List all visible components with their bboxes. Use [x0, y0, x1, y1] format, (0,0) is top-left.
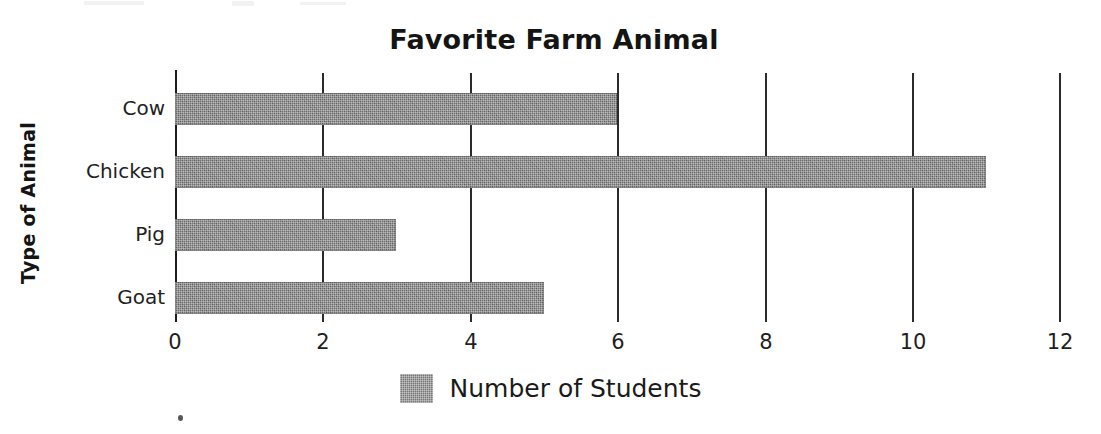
- gridline-12: [1059, 73, 1061, 322]
- y-axis-tick-labels: Cow Chicken Pig Goat: [0, 70, 165, 322]
- bar-cow: [175, 93, 617, 125]
- gridline-10: [912, 73, 914, 322]
- y-axis-tick-label-cow: Cow: [5, 96, 165, 120]
- x-axis-tick-label-12: 12: [1047, 330, 1074, 354]
- plot-area: [175, 70, 1060, 322]
- chart-title: Favorite Farm Animal: [0, 24, 1101, 55]
- x-axis-tick-label-0: 0: [168, 330, 181, 354]
- x-axis-tick-label-8: 8: [759, 330, 772, 354]
- legend-swatch-number-of-students: [400, 374, 433, 403]
- y-axis-tick-label-chicken: Chicken: [5, 159, 165, 183]
- gridline-8: [765, 73, 767, 322]
- gridline-6: [617, 73, 619, 322]
- scan-artifact-smudge: [300, 2, 346, 5]
- scan-artifact-smudge: [232, 1, 254, 6]
- chart-title-text: Favorite Farm Animal: [389, 24, 718, 55]
- y-axis-tick-label-pig: Pig: [5, 222, 165, 246]
- scan-artifact-speck: [178, 415, 183, 421]
- legend-label-number-of-students: Number of Students: [450, 374, 702, 403]
- bar-pig: [175, 219, 396, 251]
- x-axis-tick-label-6: 6: [611, 330, 624, 354]
- chart-legend: Number of Students: [0, 374, 1101, 403]
- scan-artifact-smudge: [84, 1, 144, 5]
- y-axis-tick-label-goat: Goat: [5, 285, 165, 309]
- x-axis-tick-label-10: 10: [900, 330, 927, 354]
- bar-chicken: [175, 156, 986, 188]
- bar-goat: [175, 282, 544, 314]
- x-axis-tick-labels: 0 2 4 6 8 10 12: [175, 330, 1060, 360]
- chart-page: Favorite Farm Animal Type of Animal Cow …: [0, 0, 1101, 434]
- x-axis-tick-label-2: 2: [316, 330, 329, 354]
- x-axis-tick-label-4: 4: [464, 330, 477, 354]
